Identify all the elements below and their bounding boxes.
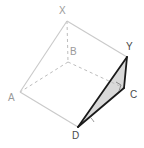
edge-x-a [20,21,67,92]
edge-a-d [20,92,78,127]
vertex-label-a: A [8,93,15,103]
vertex-label-x: X [59,6,66,16]
vertex-label-b: B [70,47,77,57]
figure-canvas [0,0,144,148]
edge-b-a-hidden [20,62,68,92]
geometry-figure: X Y A B C D [0,0,144,148]
vertex-label-y: Y [126,42,133,52]
angle-arc-at-d-icon [91,118,94,122]
vertex-label-d: D [72,131,79,141]
edge-x-b-hidden [67,21,68,62]
vertex-label-c: C [130,90,137,100]
